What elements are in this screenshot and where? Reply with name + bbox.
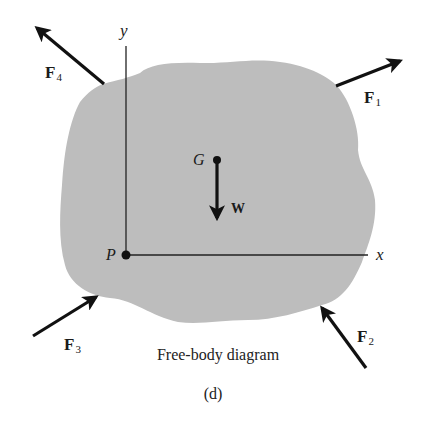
force-f1-label: F1 (364, 89, 381, 108)
origin-label: P (106, 247, 116, 263)
force-f4-name: F (45, 63, 55, 82)
force-f1-subscript: 1 (375, 96, 381, 108)
force-f2-subscript: 2 (368, 335, 374, 347)
y-axis-label: y (120, 22, 128, 39)
force-f3-label: F3 (64, 336, 81, 355)
weight-label: W (231, 202, 245, 216)
center-of-gravity-label: G (193, 152, 205, 168)
force-f4-subscript: 4 (56, 71, 62, 83)
force-f2-label: F2 (357, 328, 374, 347)
force-f3-subscript: 3 (75, 343, 81, 355)
force-f3-name: F (64, 335, 74, 354)
force-f1-name: F (364, 88, 374, 107)
x-axis-label: x (376, 246, 384, 263)
force-f2-name: F (357, 327, 367, 346)
force-f3-arrow (33, 297, 96, 336)
force-f1-arrow (336, 61, 400, 86)
diagram-sublabel: (d) (193, 385, 233, 403)
diagram-caption: Free-body diagram (133, 346, 303, 364)
force-f4-label: F4 (45, 64, 62, 83)
origin-point-dot (122, 251, 131, 260)
